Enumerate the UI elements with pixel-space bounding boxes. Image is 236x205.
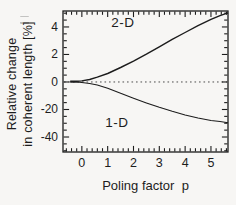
y-tick-label: -40 (16, 130, 58, 144)
curve-2-d (70, 13, 228, 81)
x-tick-label: 0 (70, 156, 94, 170)
x-axis-title: Poling factor p (85, 178, 206, 193)
x-tick-label: 3 (147, 156, 171, 170)
x-tick-label: 5 (199, 156, 223, 170)
curve-1-d (70, 82, 228, 123)
y-tick-label: 2 (16, 47, 58, 61)
x-tick-label: 2 (121, 156, 145, 170)
x-tick-label: 1 (96, 156, 120, 170)
figure: Relative change in coherent length [%] P… (0, 0, 236, 205)
y-tick-label: 0 (16, 75, 58, 89)
plot-border (63, 11, 228, 152)
curve-label-2d: 2-D (105, 15, 141, 30)
y-tick-label: -20 (16, 102, 58, 116)
x-tick-label: 4 (173, 156, 197, 170)
curve-label-1d: 1-D (99, 115, 135, 130)
y-tick-label: 4 (16, 20, 58, 34)
